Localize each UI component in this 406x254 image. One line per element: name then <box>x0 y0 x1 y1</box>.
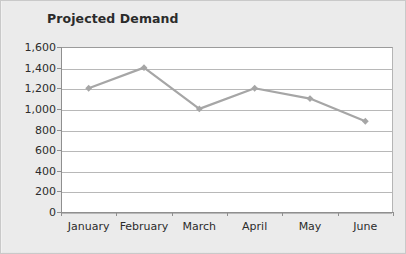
x-axis-tick-mark <box>61 212 62 216</box>
x-axis-tick-label: March <box>183 220 217 233</box>
y-axis-tick-label: 1,600 <box>10 41 56 54</box>
x-axis-tick-mark <box>227 212 228 216</box>
chart-figure: Projected Demand 1,6001,4001,2001,000800… <box>0 0 406 254</box>
y-axis-tick-label: 1,000 <box>10 102 56 115</box>
y-axis-tick-label: 1,200 <box>10 82 56 95</box>
y-axis-tick-mark <box>57 68 61 69</box>
gridline <box>61 172 392 173</box>
y-axis-tick-mark <box>57 88 61 89</box>
x-axis-tick-mark <box>116 212 117 216</box>
y-axis-tick-label: 800 <box>10 123 56 136</box>
gridline <box>61 110 392 111</box>
y-axis-tick-label: 400 <box>10 164 56 177</box>
y-axis-tick-label: 1,400 <box>10 61 56 74</box>
y-axis-tick-label: 0 <box>10 206 56 219</box>
gridline <box>61 89 392 90</box>
x-axis-tick-mark <box>282 212 283 216</box>
gridline <box>61 69 392 70</box>
chart-title: Projected Demand <box>47 11 179 26</box>
gridline <box>61 131 392 132</box>
y-axis-tick-mark <box>57 109 61 110</box>
x-axis-tick-label: April <box>242 220 267 233</box>
y-axis-tick-label: 200 <box>10 185 56 198</box>
y-axis-tick-mark <box>57 171 61 172</box>
x-axis-tick-label: February <box>120 220 169 233</box>
y-axis-tick-labels: 1,6001,4001,2001,0008006004002000 <box>6 1 56 254</box>
gridline <box>61 151 392 152</box>
y-axis-tick-mark <box>57 191 61 192</box>
plot-area <box>61 47 393 212</box>
y-axis-tick-label: 600 <box>10 144 56 157</box>
gridline <box>61 192 392 193</box>
y-axis-tick-mark <box>57 150 61 151</box>
y-axis-tick-mark <box>57 47 61 48</box>
x-axis-tick-mark <box>172 212 173 216</box>
x-axis-tick-mark <box>393 212 394 216</box>
x-axis-tick-label: May <box>299 220 322 233</box>
x-axis-tick-label: January <box>68 220 110 233</box>
x-axis-tick-mark <box>338 212 339 216</box>
y-axis-line <box>61 47 62 213</box>
x-axis-tick-label: June <box>353 220 377 233</box>
y-axis-tick-mark <box>57 130 61 131</box>
